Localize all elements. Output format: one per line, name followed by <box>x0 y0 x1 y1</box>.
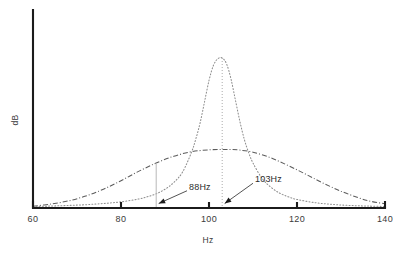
x-tick-label-100: 100 <box>201 214 217 224</box>
x-tick-label-140: 140 <box>377 214 393 224</box>
x-tick-label-120: 120 <box>289 214 305 224</box>
x-tick-label-60: 60 <box>28 214 39 224</box>
annotation-88hz-label: 88Hz <box>189 182 211 192</box>
annotation-103hz-arrowhead <box>225 198 232 204</box>
broad-resonance-curve <box>33 149 385 206</box>
chart-canvas: 60 80 100 120 140 Hz dB 88Hz 103Hz <box>0 0 410 255</box>
frequency-response-chart: 60 80 100 120 140 Hz dB 88Hz 103Hz <box>0 0 410 255</box>
annotation-103hz-label: 103Hz <box>255 174 282 184</box>
x-axis-title: Hz <box>203 235 214 245</box>
annotation-88hz-arrowhead <box>159 199 166 204</box>
x-tick-label-80: 80 <box>116 214 127 224</box>
annotation-88hz: 88Hz <box>159 182 211 204</box>
annotation-103hz: 103Hz <box>225 174 283 203</box>
y-axis-title: dB <box>10 114 20 125</box>
axis-lines <box>33 10 385 208</box>
